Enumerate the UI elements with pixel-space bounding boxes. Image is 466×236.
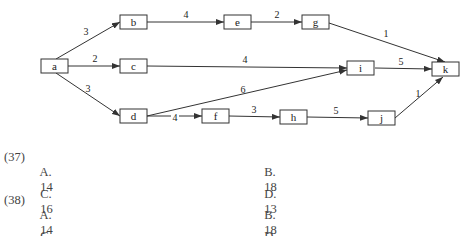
- edge-c-i: 4: [147, 54, 347, 68]
- node-label-c: c: [131, 60, 136, 72]
- node-label-j: j: [379, 112, 383, 124]
- edge-a-d: 3: [56, 73, 120, 116]
- node-k: k: [432, 62, 459, 76]
- node-label-i: i: [359, 62, 362, 74]
- question-38-option-d[interactable]: D. 17: [258, 214, 277, 236]
- activity-network-diagram: 3234214654351 abcdefghijk: [0, 0, 466, 150]
- edge-g-k: 1: [329, 23, 445, 62]
- option-letter: D.: [264, 229, 276, 236]
- question-38-option-c[interactable]: C. 16: [34, 214, 53, 236]
- edge-arrow-c-i: [147, 66, 347, 68]
- node-label-a: a: [52, 60, 57, 72]
- edge-weight-h-j: 5: [334, 105, 339, 116]
- option-letter: C.: [40, 229, 51, 236]
- edge-a-b: 3: [56, 22, 120, 59]
- edge-e-g: 2: [251, 9, 302, 22]
- edge-arrow-i-k: [375, 68, 432, 69]
- node-label-d: d: [131, 110, 137, 122]
- question-38-number: (38): [4, 193, 25, 208]
- node-e: e: [224, 15, 251, 29]
- edge-weight-j-k: 1: [416, 88, 421, 99]
- node-i: i: [347, 61, 374, 75]
- node-label-h: h: [291, 111, 297, 123]
- edge-arrow-f-h: [229, 116, 280, 117]
- edge-b-e: 4: [147, 9, 224, 22]
- edge-arrow-h-j: [307, 117, 368, 118]
- node-label-e: e: [235, 16, 240, 28]
- edge-arrow-d-i: [147, 70, 347, 116]
- edge-i-k: 5: [375, 56, 432, 69]
- node-a: a: [41, 59, 68, 73]
- node-g: g: [302, 15, 329, 29]
- edge-weight-i-k: 5: [399, 56, 404, 67]
- edge-weight-b-e: 4: [184, 9, 189, 20]
- node-h: h: [280, 110, 307, 124]
- edge-h-j: 5: [307, 105, 368, 118]
- node-f: f: [202, 109, 229, 123]
- edge-weight-g-k: 1: [384, 28, 389, 39]
- edge-d-i: 6: [147, 70, 347, 116]
- node-label-f: f: [214, 110, 218, 122]
- node-label-b: b: [131, 16, 137, 28]
- edge-weight-c-i: 4: [243, 54, 248, 65]
- node-c: c: [120, 59, 147, 73]
- edge-f-h: 3: [229, 104, 280, 117]
- edge-arrow-a-d: [56, 73, 120, 116]
- edge-weight-e-g: 2: [275, 9, 280, 20]
- node-b: b: [120, 15, 147, 29]
- edge-weight-d-i: 6: [241, 84, 246, 95]
- question-37-number: (37): [4, 150, 25, 165]
- edge-weight-a-d: 3: [86, 83, 91, 94]
- edge-weight-a-c: 2: [93, 53, 98, 64]
- node-j: j: [368, 111, 395, 125]
- edge-weight-a-b: 3: [84, 26, 89, 37]
- node-label-k: k: [443, 63, 449, 75]
- node-label-g: g: [313, 16, 319, 28]
- edge-weight-d-f: 4: [173, 112, 178, 123]
- edge-j-k: 1: [395, 77, 443, 118]
- edge-weight-f-h: 3: [252, 104, 257, 115]
- edge-a-c: 2: [68, 53, 120, 66]
- node-d: d: [120, 109, 147, 123]
